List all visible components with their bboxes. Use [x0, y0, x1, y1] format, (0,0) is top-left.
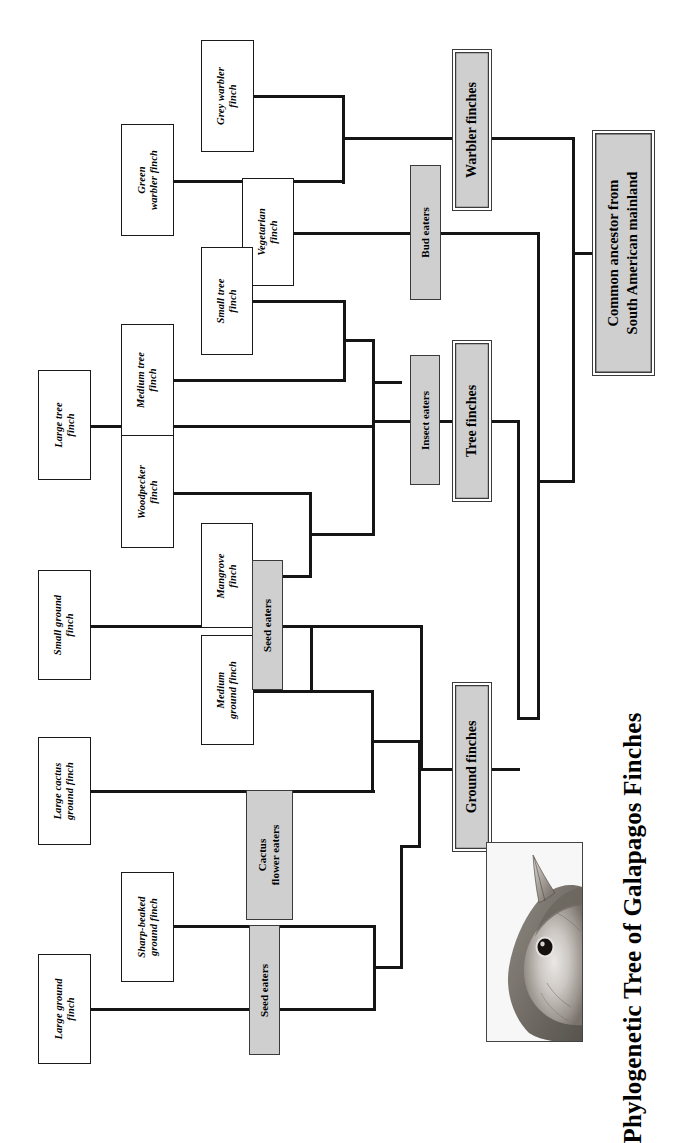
- group-label: Ground finches: [464, 721, 480, 814]
- connector-bud-eaters-stem: [440, 232, 540, 235]
- root-box-common-ancestor[interactable]: Common ancestor from South American main…: [592, 130, 655, 376]
- diet-label: Cactus flower eaters: [257, 825, 283, 886]
- connector-seedeaters-upper-lower: [310, 690, 374, 693]
- species-box-mangrove-finch[interactable]: Mangrove finch: [201, 523, 253, 628]
- species-box-large-cactus-ground-finch[interactable]: Large cactus ground finch: [38, 737, 91, 845]
- connector-warbler-group-stem: [342, 137, 452, 140]
- species-label: Medium ground finch: [216, 661, 240, 719]
- diet-box-cactus-flower-eaters[interactable]: Cactus flower eaters: [246, 790, 293, 920]
- group-label: Tree finches: [464, 385, 480, 457]
- species-label: Large cactus ground finch: [53, 762, 77, 820]
- connector-insect-eaters-stem: [372, 420, 410, 423]
- connector-small-tree-finch: [252, 300, 346, 303]
- connector-woodpecker-finch: [173, 492, 312, 495]
- species-box-medium-ground-finch[interactable]: Medium ground finch: [201, 635, 254, 745]
- connector-cactus-ground-stem: [371, 740, 421, 743]
- connector-treefinches-trunk-vertical: [517, 420, 520, 718]
- connector-tree-upper-stem: [372, 381, 402, 384]
- species-label: Vegetarian finch: [256, 208, 280, 256]
- page-title: Phylogenetic Tree of Galapagos Finches: [619, 712, 647, 1143]
- connector-seedeaters-upper-out: [310, 625, 423, 628]
- connector-root-main-vertical: [572, 137, 575, 482]
- connector-small-medium-stem: [343, 339, 375, 342]
- connector-seed-eaters-tree-vertical: [310, 625, 313, 693]
- species-label: Small tree finch: [215, 278, 239, 323]
- species-label: Medium tree finch: [136, 352, 160, 408]
- root-label: Common ancestor from South American main…: [605, 172, 643, 335]
- species-box-green-warbler-finch[interactable]: Green warbler finch: [121, 124, 174, 236]
- species-box-large-ground-finch[interactable]: Large ground finch: [38, 954, 91, 1064]
- group-label: Warbler finches: [464, 82, 480, 178]
- diet-label: Bud eaters: [419, 207, 432, 257]
- species-box-small-ground-finch[interactable]: Small ground finch: [38, 570, 91, 680]
- diet-label: Seed eaters: [261, 599, 274, 652]
- diet-box-insect-eaters[interactable]: Insect eaters: [410, 355, 440, 485]
- connector-woodpecker-mangrove-stem: [309, 533, 375, 536]
- connector-root-junction-vertical: [537, 232, 540, 720]
- species-label: Large ground finch: [53, 978, 77, 1039]
- connector-large-ground-finch: [90, 1008, 376, 1011]
- connector-medium-tree-finch: [173, 379, 346, 382]
- species-box-medium-tree-finch[interactable]: Medium tree finch: [121, 324, 174, 436]
- diet-box-seed-eaters-tree[interactable]: Seed eaters: [252, 560, 283, 690]
- connector-root-stem: [572, 252, 594, 255]
- diet-box-seed-eaters-ground[interactable]: Seed eaters: [249, 925, 280, 1055]
- connector-treefinches-stem: [492, 420, 520, 423]
- connector-seedeaters-lower-stem: [373, 966, 403, 969]
- species-label: Green warbler finch: [136, 150, 160, 210]
- species-label: Sharp-beaked ground finch: [136, 896, 160, 957]
- connector-ground-lower-vertical: [418, 740, 421, 848]
- diet-box-bud-eaters[interactable]: Bud eaters: [410, 165, 441, 300]
- species-label: Grey warbler finch: [216, 67, 240, 125]
- diet-label: Seed eaters: [258, 964, 271, 1017]
- group-box-tree-finches[interactable]: Tree finches: [452, 340, 492, 502]
- species-label: Woodpecker finch: [136, 465, 160, 519]
- connector-groundfinches-out: [492, 768, 520, 771]
- species-box-sharp-beaked-ground-finch[interactable]: Sharp-beaked ground finch: [121, 872, 174, 982]
- connector-cactus-flower-vertical: [400, 845, 403, 969]
- group-box-ground-finches[interactable]: Ground finches: [452, 682, 492, 852]
- connector-grey-warbler: [253, 95, 345, 98]
- species-box-small-tree-finch[interactable]: Small tree finch: [201, 247, 253, 355]
- connector-vegetarian-finch: [293, 232, 410, 235]
- species-label: Large tree finch: [53, 402, 77, 448]
- connector-tree-lower-vertical: [372, 381, 375, 536]
- species-box-large-tree-finch[interactable]: Large tree finch: [38, 370, 91, 480]
- finch-head-illustration: [487, 843, 582, 1041]
- species-label: Small ground finch: [53, 595, 77, 655]
- finch-head-photo: [486, 842, 583, 1042]
- diet-label: Insect eaters: [419, 391, 432, 450]
- connector-medium-ground-finch: [253, 690, 313, 693]
- connector-groundfinches-stem: [420, 768, 453, 771]
- species-box-woodpecker-finch[interactable]: Woodpecker finch: [121, 435, 174, 548]
- species-box-grey-warbler-finch[interactable]: Grey warbler finch: [201, 40, 254, 152]
- connector-large-cactus-ground-finch: [90, 790, 375, 793]
- connector-warbler-to-root: [492, 137, 575, 140]
- group-box-warbler-finches[interactable]: Warbler finches: [452, 49, 492, 211]
- species-label: Mangrove finch: [215, 553, 239, 598]
- connector-warbler-to-main-trunk: [537, 480, 575, 483]
- figure-title: Phylogenetic Tree of Galapagos Finches: [575, 740, 690, 1115]
